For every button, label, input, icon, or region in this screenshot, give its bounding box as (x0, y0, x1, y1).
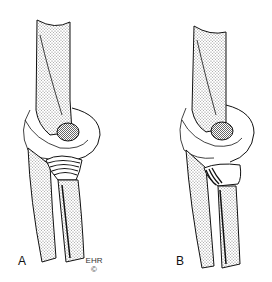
copyright-symbol: © (80, 265, 108, 274)
signature-initials: EHR (80, 256, 108, 265)
artist-signature: EHR © (80, 256, 108, 274)
panel-label-a: A (18, 254, 26, 268)
illustration-svg (0, 0, 272, 282)
elbow-anatomy-figure: A B EHR © (0, 0, 272, 282)
panel-a-drawing (23, 20, 100, 262)
panel-label-b: B (176, 254, 184, 268)
panel-b-drawing (180, 26, 254, 268)
